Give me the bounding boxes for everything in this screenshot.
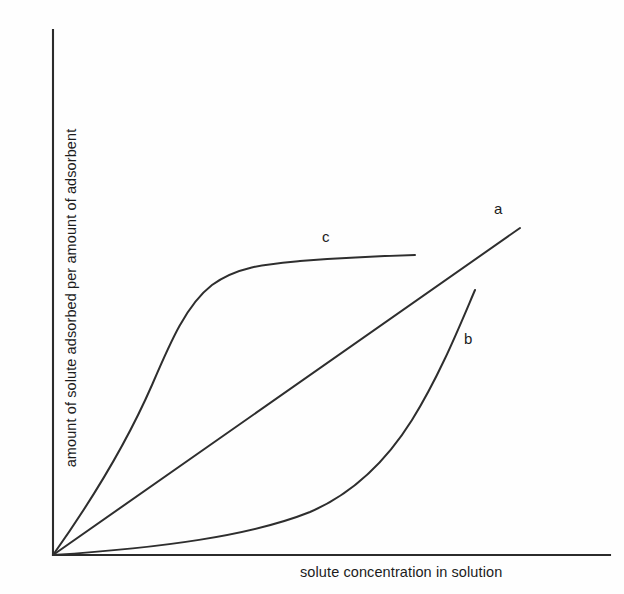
curve-label-c: c [322, 229, 330, 244]
x-axis-title: solute concentration in solution [300, 564, 502, 580]
y-axis-title: amount of solute adsorbed per amount of … [63, 38, 79, 558]
curve-label-b: b [464, 331, 473, 346]
curve-label-a: a [494, 201, 503, 216]
plot-canvas [0, 0, 624, 594]
curve-series-a [53, 228, 520, 555]
curve-series-c [53, 255, 415, 555]
curve-series-b [53, 290, 475, 555]
adsorption-isotherm-figure: a b c solute concentration in solution a… [0, 0, 624, 594]
